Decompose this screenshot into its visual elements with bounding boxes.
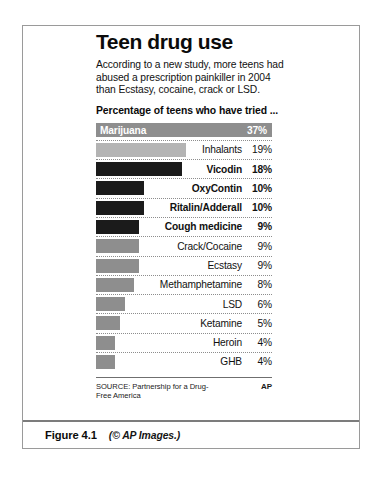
bar-value: 18% [245,163,272,177]
bar-lsd [96,297,125,311]
bar-value: 9% [245,220,272,234]
bar-methamphetamine [96,278,134,292]
chart-row: Crack/Cocaine9% [96,237,272,256]
graphic-deck-text: According to a new study, more teens had… [96,59,284,97]
bar-cough-medicine [96,220,139,234]
bar-value: 9% [245,240,272,254]
chart-row: Inhalants19% [96,141,272,160]
chart-row: Cough medicine9% [96,218,272,237]
bar-label: Ecstasy [207,259,242,273]
bar-label: Cough medicine [165,220,242,234]
drug-use-bar-chart: Marijuana37%Inhalants19%Vicodin18%OxyCon… [96,121,272,372]
bar-label: Heroin [213,336,242,350]
bar-oxycontin [96,181,144,195]
graphic-headline: Teen drug use [96,31,284,53]
source-attribution: SOURCE: Partnership for a Drug-Free Amer… [96,382,221,400]
figure-credit: (© AP Images.) [109,430,180,441]
bar-value: 6% [245,298,272,312]
bar-label: Ketamine [200,317,242,331]
chart-row: Ketamine5% [96,314,272,333]
bar-value: 9% [245,259,272,273]
bar-ketamine [96,316,120,330]
figure-frame: Teen drug use According to a new study, … [22,25,360,449]
figure-number: Figure 4.1 [45,429,97,441]
source-divider-rule [96,377,272,378]
chart-row: Methamphetamine8% [96,276,272,295]
figure-caption: Figure 4.1 (© AP Images.) [23,422,359,448]
chart-row: LSD6% [96,295,272,314]
bar-vicodin [96,162,182,176]
bar-value: 4% [245,355,272,369]
bar-label: LSD [223,298,242,312]
bar-label: Methamphetamine [160,278,242,292]
bar-label: Ritalin/Adderall [170,201,242,215]
ap-credit-label: AP [261,382,272,391]
bar-label: OxyContin [192,182,242,196]
chart-row: Ritalin/Adderall10% [96,199,272,218]
bar-value: 37% [247,124,267,138]
bar-crack-cocaine [96,239,139,253]
chart-row: Marijuana37% [96,121,272,140]
bar-inhalants [96,143,186,157]
ap-news-graphic: Teen drug use According to a new study, … [23,26,359,448]
chart-row: OxyContin10% [96,179,272,198]
graphic-content: Teen drug use According to a new study, … [96,31,284,404]
bar-heroin [96,336,115,350]
bar-label: Marijuana [100,124,146,138]
bar-label: Vicodin [206,163,242,177]
chart-row: Vicodin18% [96,160,272,179]
bar-value: 10% [245,201,272,215]
bar-ghb [96,355,115,369]
chart-row: GHB4% [96,353,272,372]
bar-value: 10% [245,182,272,196]
bar-label: GHB [220,355,242,369]
bar-ecstasy [96,259,139,273]
bar-value: 5% [245,317,272,331]
chart-row: Ecstasy9% [96,257,272,276]
bar-label: Inhalants [202,143,242,157]
source-block: SOURCE: Partnership for a Drug-Free Amer… [96,382,272,404]
bar-ritalin-adderall [96,201,144,215]
chart-kicker-label: Percentage of teens who have tried ... [96,105,284,117]
bar-value: 4% [245,336,272,350]
bar-value: 19% [245,143,272,157]
bar-value: 8% [245,278,272,292]
chart-row: Heroin4% [96,334,272,353]
bar-label: Crack/Cocaine [177,240,242,254]
